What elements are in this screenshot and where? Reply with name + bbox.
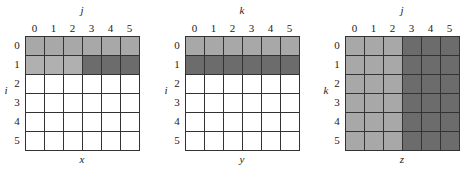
row-label: 1 (11, 55, 23, 74)
matrix-name-label: y (232, 153, 252, 165)
matrix-cell (243, 113, 262, 132)
matrix-cell (441, 37, 460, 56)
matrix-cell (403, 94, 422, 113)
matrix-cell (384, 94, 403, 113)
matrix-cell (45, 132, 64, 151)
matrix-cell (205, 113, 224, 132)
matrix-cell (26, 56, 45, 75)
matrix-cell (186, 94, 205, 113)
matrix-cell (186, 113, 205, 132)
row-label: 5 (171, 131, 183, 150)
matrix-cell (102, 37, 121, 56)
matrix-cell (243, 94, 262, 113)
matrix-cell (441, 94, 460, 113)
row-label: 2 (171, 74, 183, 93)
matrix-grid (25, 36, 140, 151)
row-label: 3 (331, 93, 343, 112)
matrix-cell (441, 113, 460, 132)
matrix-cell (83, 75, 102, 94)
matrix-cell (441, 132, 460, 151)
matrix-cell (45, 94, 64, 113)
matrix-cell (83, 132, 102, 151)
column-label: 5 (440, 21, 459, 35)
matrix-cell (121, 56, 140, 75)
top-axis-label: j (392, 4, 412, 16)
matrix-cell (243, 37, 262, 56)
matrix-cell (121, 113, 140, 132)
matrix-cell (281, 56, 300, 75)
matrix-cell (365, 56, 384, 75)
matrix-cell (102, 94, 121, 113)
matrix-cell (365, 113, 384, 132)
matrix-cell (102, 132, 121, 151)
matrix-panel-x: j 0 1 2 3 4 5 i 0 1 2 3 4 5 x (0, 0, 150, 170)
column-label: 0 (25, 21, 44, 35)
matrix-cell (224, 56, 243, 75)
column-label: 1 (44, 21, 63, 35)
matrix-cell (26, 94, 45, 113)
column-label: 2 (63, 21, 82, 35)
top-axis-label: j (72, 4, 92, 16)
matrix-cell (83, 37, 102, 56)
matrix-cell (186, 75, 205, 94)
matrix-cell (403, 132, 422, 151)
row-labels: 0 1 2 3 4 5 (331, 36, 343, 150)
matrix-cell (83, 94, 102, 113)
matrix-cell (384, 75, 403, 94)
matrix-cell (224, 113, 243, 132)
matrix-cell (281, 75, 300, 94)
matrix-cell (205, 56, 224, 75)
matrix-cell (102, 75, 121, 94)
matrix-cell (281, 132, 300, 151)
row-label: 5 (331, 131, 343, 150)
matrix-name-label: x (72, 153, 92, 165)
row-labels: 0 1 2 3 4 5 (11, 36, 23, 150)
matrix-cell (64, 56, 83, 75)
matrix-cell (243, 56, 262, 75)
row-label: 2 (11, 74, 23, 93)
matrix-cell (45, 113, 64, 132)
column-label: 3 (402, 21, 421, 35)
matrix-cell (205, 37, 224, 56)
row-label: 0 (331, 36, 343, 55)
matrix-cell (26, 113, 45, 132)
column-label: 4 (261, 21, 280, 35)
column-labels: 0 1 2 3 4 5 (345, 21, 459, 35)
top-axis-label: k (232, 4, 252, 16)
matrix-cell (26, 132, 45, 151)
matrix-cell (365, 75, 384, 94)
column-label: 0 (185, 21, 204, 35)
matrix-cell (346, 56, 365, 75)
matrix-cell (224, 94, 243, 113)
column-labels: 0 1 2 3 4 5 (25, 21, 139, 35)
column-label: 1 (204, 21, 223, 35)
matrix-cell (384, 56, 403, 75)
matrix-cell (64, 113, 83, 132)
matrix-cell (64, 37, 83, 56)
row-label: 4 (171, 112, 183, 131)
matrix-cell (205, 132, 224, 151)
row-label: 3 (11, 93, 23, 112)
matrix-cell (121, 75, 140, 94)
matrix-cell (64, 94, 83, 113)
matrix-cell (346, 132, 365, 151)
matrix-cell (365, 94, 384, 113)
column-label: 4 (101, 21, 120, 35)
column-labels: 0 1 2 3 4 5 (185, 21, 299, 35)
row-label: 3 (171, 93, 183, 112)
matrix-cell (26, 37, 45, 56)
matrix-cell (422, 113, 441, 132)
matrix-cell (365, 132, 384, 151)
matrix-cell (422, 37, 441, 56)
matrix-cell (205, 75, 224, 94)
matrix-cell (102, 113, 121, 132)
matrix-cell (83, 113, 102, 132)
matrix-cell (224, 75, 243, 94)
matrix-cell (403, 56, 422, 75)
matrix-cell (281, 94, 300, 113)
matrix-cell (224, 37, 243, 56)
matrix-cell (422, 132, 441, 151)
matrix-cell (346, 75, 365, 94)
row-label: 0 (171, 36, 183, 55)
matrix-cell (403, 75, 422, 94)
